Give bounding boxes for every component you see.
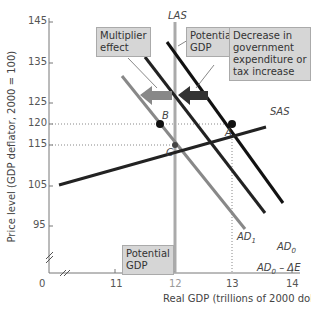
point-c-label: C [166,147,173,158]
x-tick-14: 14 [286,278,299,289]
x-tick-11: 11 [110,278,123,289]
point-b [156,120,164,128]
x-tick-12: 12 [169,278,182,289]
y-tick-135: 135 [28,56,47,67]
x-axis-label: Real GDP (trillions of 2000 dollars) [163,293,311,304]
y-tick-125: 125 [28,96,47,107]
multiplier-effect-box: Multipliereffect [96,27,151,57]
ad1-label: AD1 [237,231,256,245]
decrease-gov-expenditure-box: Decrease ingovernmentexpenditure ortax i… [229,27,311,81]
chart-container: Price level (GDP deflator, 2000 = 100) 1… [0,0,311,311]
axis-break-marks [46,252,70,276]
ad0-label: AD0 [277,241,296,255]
las-label: LAS [168,10,187,21]
point-b-label: B [162,110,169,121]
x-tick-13: 13 [226,278,239,289]
point-a-label: A [225,127,232,138]
y-tick-145: 145 [28,15,47,26]
y-axis-label: Price level (GDP deflator, 2000 = 100) [6,53,17,243]
y-tick-95: 95 [33,219,46,230]
potential-gdp-bottom-box: PotentialGDP [122,245,174,275]
y-tick-115: 115 [28,138,47,149]
y-tick-120: 120 [28,117,47,128]
x-tick-0: 0 [39,278,45,289]
y-tick-105: 105 [28,179,47,190]
sas-label: SAS [270,106,290,117]
decrease-arrow-icon [178,86,208,105]
ad0-minus-de-label: AD0 – ΔE [257,262,301,276]
